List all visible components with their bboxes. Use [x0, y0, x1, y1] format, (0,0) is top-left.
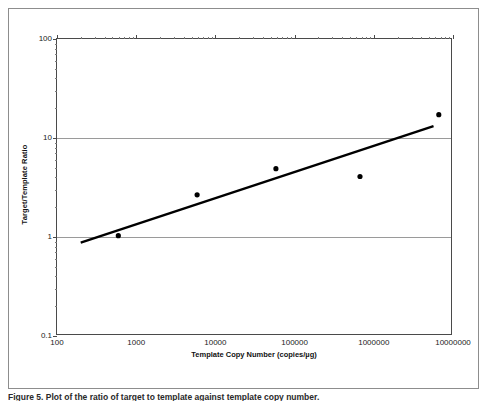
y-axis-title: Target/Template Ratio	[17, 120, 31, 129]
data-point	[195, 192, 200, 197]
data-point	[357, 174, 362, 179]
x-tick-label: 100	[50, 339, 63, 347]
y-tick-label: 1	[48, 233, 52, 241]
chart-figure: Target/Template Ratio 0.1110100 10010001…	[0, 0, 489, 401]
figure-caption: Figure 5. Plot of the ratio of target to…	[8, 392, 478, 401]
y-tick-label: 100	[39, 35, 52, 43]
y-tick-mark	[53, 336, 57, 337]
data-point	[436, 112, 441, 117]
x-tick-label: 10000	[204, 339, 226, 347]
data-point	[116, 233, 121, 238]
data-layer	[57, 39, 451, 334]
plot-area: 0.1110100 100100010000100000100000010000…	[56, 38, 452, 335]
y-tick-label: 10	[43, 134, 52, 142]
x-tick-mark	[453, 35, 454, 39]
x-tick-label: 1000	[127, 339, 145, 347]
x-tick-label: 10000000	[435, 339, 471, 347]
x-axis-title: Template Copy Number (copies/µg)	[56, 350, 452, 359]
x-tick-label: 1000000	[358, 339, 389, 347]
y-axis-title-text: Target/Template Ratio	[20, 120, 29, 250]
regression-line	[81, 126, 434, 242]
data-point-markers	[116, 112, 442, 238]
x-tick-label: 100000	[281, 339, 308, 347]
regression-line-path	[81, 126, 434, 242]
data-point	[273, 166, 278, 171]
